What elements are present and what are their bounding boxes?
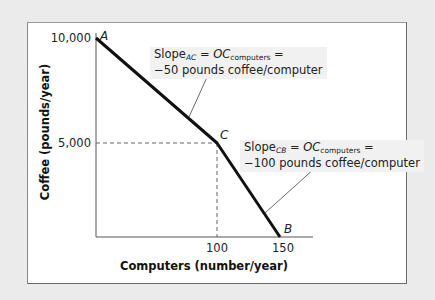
x-axis-label: Computers (number/year) bbox=[120, 259, 288, 273]
annotation-slope-cb: SlopeCB = OCcomputers = −100 pounds coff… bbox=[240, 140, 424, 172]
y-tick-10000: 10,000 bbox=[51, 31, 91, 45]
annotation-ac-line1: SlopeAC = OCcomputers = bbox=[154, 48, 323, 64]
y-tick-5000: 5,000 bbox=[58, 136, 91, 150]
x-tick-100: 100 bbox=[206, 241, 228, 255]
annotation-cb-line2: −100 pounds coffee/computer bbox=[244, 157, 420, 170]
annotation-ac-line2: −50 pounds coffee/computer bbox=[154, 64, 323, 77]
x-tick-150: 150 bbox=[272, 241, 294, 255]
leader-line-cb bbox=[265, 168, 315, 213]
point-label-c: C bbox=[220, 128, 229, 142]
leader-line-ac bbox=[189, 75, 208, 117]
annotation-cb-line1: SlopeCB = OCcomputers = bbox=[244, 141, 420, 157]
point-label-a: A bbox=[99, 29, 108, 43]
annotation-slope-ac: SlopeAC = OCcomputers = −50 pounds coffe… bbox=[150, 47, 327, 79]
y-axis-label: Coffee (pounds/year) bbox=[38, 64, 52, 200]
point-label-b: B bbox=[284, 222, 292, 236]
